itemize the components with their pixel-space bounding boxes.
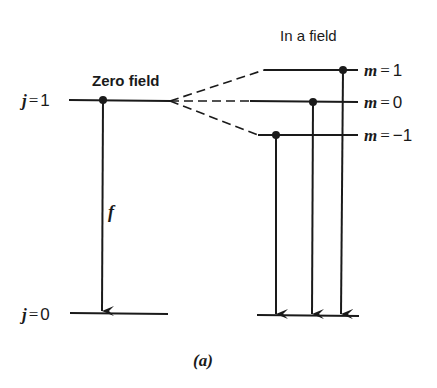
level-line-j1 [69, 100, 170, 101]
transition-arrow-m0 [312, 102, 313, 314]
in-field-panel: In a field m=1 m=0 m=−1 [250, 27, 412, 316]
connector-m1 [170, 70, 264, 101]
transition-arrow-m1 [341, 70, 343, 314]
connector-m-1 [170, 101, 258, 135]
transition-arrow-f [102, 100, 103, 311]
level-line-j0 [70, 313, 168, 314]
zeeman-splitting-connectors [170, 70, 264, 135]
figure-caption: (a) [193, 351, 213, 370]
level-label-m0: m=0 [364, 93, 402, 112]
zero-field-panel: Zero field j=1 f j=0 [19, 72, 170, 324]
in-field-title: In a field [280, 27, 337, 44]
energy-level-diagram: Zero field j=1 f j=0 In a field m=1 [0, 0, 437, 388]
level-line-ground-field [257, 315, 359, 316]
level-label-j0: j=0 [19, 305, 50, 324]
level-label-m1: m=1 [364, 61, 402, 80]
level-label-j1: j=1 [19, 91, 50, 110]
level-label-m-1: m=−1 [364, 126, 412, 145]
transition-label-f: f [108, 202, 116, 222]
zero-field-title: Zero field [92, 72, 160, 89]
